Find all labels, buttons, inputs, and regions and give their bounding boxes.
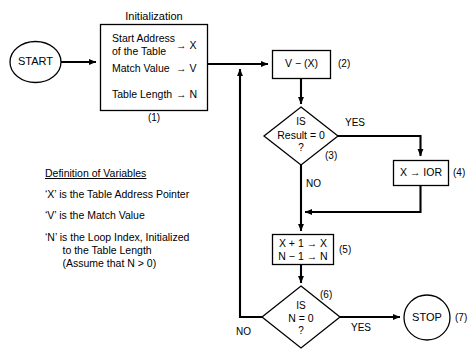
legend-heading: Definition of Variables xyxy=(45,167,189,179)
legend-line-2: ‘V’ is the Match Value xyxy=(45,209,189,221)
decision-n-yes-label: YES xyxy=(351,322,371,334)
flowchart-canvas: START Initialization Start Address of th… xyxy=(0,0,472,356)
edge-store-ior-to-merge xyxy=(305,186,421,213)
stop-step-number: (7) xyxy=(455,312,467,324)
edge-decision-result-yes xyxy=(338,136,421,156)
init-row-1-target: → X xyxy=(176,39,196,52)
init-row-2-text: Match Value xyxy=(112,62,170,75)
init-row-1-text: Start Address of the Table xyxy=(112,32,175,58)
decision-n-line3: ? xyxy=(271,325,331,337)
init-caption: Initialization xyxy=(104,10,204,23)
store-ior-node-label: X → IOR xyxy=(393,166,449,179)
increment-line2: N − 1 → N xyxy=(272,250,334,263)
subtract-step-number: (2) xyxy=(338,58,350,70)
edge-decision-n-no-loopback xyxy=(240,69,262,317)
store-ior-step-number: (4) xyxy=(453,167,465,179)
init-row-3-target: → N xyxy=(176,88,197,101)
decision-result-yes-label: YES xyxy=(345,117,365,129)
decision-n-line1: IS xyxy=(271,300,331,312)
increment-line1: X + 1 → X xyxy=(272,237,334,250)
decision-result-step-number: (3) xyxy=(325,150,337,162)
legend-line-3: ‘N’ is the Loop Index, Initialized xyxy=(45,231,189,243)
start-node-label: START xyxy=(10,55,61,68)
legend-line-1: ‘X’ is the Table Address Pointer xyxy=(45,188,189,200)
decision-result-line1: IS xyxy=(271,116,331,128)
decision-n-line2: N = 0 xyxy=(271,312,331,325)
decision-n-no-label: NO xyxy=(236,326,251,338)
subtract-node-label: V − (X) xyxy=(272,57,331,70)
legend-block: Definition of Variables ‘X’ is the Table… xyxy=(45,167,189,269)
init-row-3-text: Table Length xyxy=(112,88,172,101)
init-row-2-target: → V xyxy=(176,62,196,75)
decision-result-line2: Result = 0 xyxy=(266,129,336,142)
legend-line-4: to the Table Length xyxy=(45,244,189,256)
decision-result-no-label: NO xyxy=(306,178,321,190)
init-step-number: (1) xyxy=(124,112,184,124)
stop-node-label: STOP xyxy=(404,311,450,324)
increment-step-number: (5) xyxy=(339,244,351,256)
legend-line-5: (Assume that N > 0) xyxy=(45,257,189,269)
decision-result-line3: ? xyxy=(271,142,331,154)
